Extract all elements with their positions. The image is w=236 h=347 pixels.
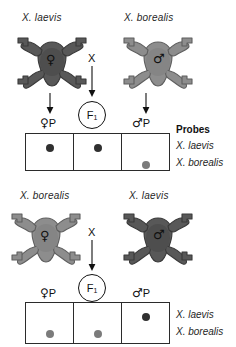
lane-text-female-top: P bbox=[49, 117, 56, 129]
probe-row-label-laevis-bottom: X. laevis bbox=[176, 309, 214, 320]
band-borealis-lane2-bottom bbox=[94, 330, 102, 338]
f1-generation-badge-top: F1 bbox=[78, 101, 106, 129]
cross-panel-top: X. laevis X. borealis ♀ bbox=[0, 0, 236, 175]
lane-text-female-bottom: P bbox=[49, 287, 56, 299]
sex-symbol-male-bottom-right: ♂ bbox=[153, 228, 165, 241]
lane-label-male-p-bottom: ♂P bbox=[132, 286, 150, 300]
cross-panel-bottom: X. borealis X. laevis ♀ bbox=[0, 178, 236, 347]
species-label-parent-female-bottom: X. borealis bbox=[20, 190, 69, 201]
blot-lane-1-bottom bbox=[26, 303, 74, 343]
blot-lane-3-top bbox=[122, 134, 169, 170]
f1-generation-badge-bottom: F1 bbox=[78, 274, 106, 302]
species-label-parent-female-top: X. laevis bbox=[22, 12, 62, 23]
probe-row-label-laevis-top: X. laevis bbox=[176, 140, 214, 151]
band-laevis-lane1-top bbox=[46, 144, 54, 152]
cross-symbol-bottom: X bbox=[88, 226, 95, 238]
band-borealis-lane1-bottom bbox=[46, 330, 54, 338]
band-laevis-lane3-bottom bbox=[142, 313, 150, 321]
species-label-parent-male-top: X. borealis bbox=[124, 12, 173, 23]
sex-symbol-female-top-left: ♀ bbox=[46, 53, 56, 66]
blot-lane-1-top bbox=[26, 134, 74, 170]
f1-subscript-bottom: 1 bbox=[93, 287, 97, 294]
frog-illustration-laevis-female-top: ♀ bbox=[12, 32, 92, 94]
probes-header: Probes bbox=[176, 124, 210, 135]
lane-symbol-male-bottom: ♂ bbox=[132, 286, 143, 300]
blot-lane-2-top bbox=[74, 134, 122, 170]
lane-text-male-bottom: P bbox=[143, 287, 150, 299]
band-borealis-lane3-top bbox=[142, 161, 150, 169]
blot-table-top bbox=[25, 133, 170, 171]
species-label-parent-male-bottom: X. laevis bbox=[129, 190, 169, 201]
sex-symbol-female-bottom-left: ♀ bbox=[40, 229, 50, 242]
lane-label-male-p-top: ♂P bbox=[132, 116, 150, 130]
lane-text-male-top: P bbox=[143, 117, 150, 129]
frog-illustration-borealis-female-bottom: ♀ bbox=[6, 208, 86, 270]
sex-symbol-male-top-right: ♂ bbox=[153, 52, 165, 65]
frog-illustration-laevis-male-bottom: ♂ bbox=[118, 208, 198, 270]
arrow-down-center-bottom bbox=[86, 240, 98, 272]
probe-row-label-borealis-top: X. borealis bbox=[176, 157, 223, 168]
blot-lane-2-bottom bbox=[74, 303, 122, 343]
lane-symbol-male-top: ♂ bbox=[132, 116, 143, 130]
arrow-down-center-top bbox=[86, 66, 98, 98]
cross-symbol-top: X bbox=[88, 52, 95, 64]
arrow-down-left-top bbox=[44, 93, 56, 115]
lane-label-female-p-top: ♀P bbox=[40, 116, 56, 130]
lane-symbol-female-bottom: ♀ bbox=[40, 286, 49, 300]
probe-row-label-borealis-bottom: X. borealis bbox=[176, 326, 223, 337]
lane-label-female-p-bottom: ♀P bbox=[40, 286, 56, 300]
arrow-down-right-top bbox=[140, 93, 152, 115]
blot-table-bottom bbox=[25, 302, 170, 344]
f1-label-bottom: F bbox=[87, 282, 94, 294]
blot-lane-3-bottom bbox=[122, 303, 169, 343]
band-laevis-lane2-top bbox=[94, 144, 102, 152]
lane-symbol-female-top: ♀ bbox=[40, 116, 49, 130]
f1-subscript-top: 1 bbox=[93, 114, 97, 121]
frog-illustration-borealis-male-top: ♂ bbox=[118, 32, 198, 94]
f1-label-top: F bbox=[87, 109, 94, 121]
